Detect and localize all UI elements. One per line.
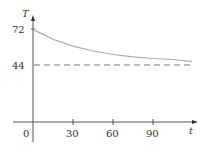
x-tick-label-90: 90 — [146, 128, 159, 139]
y-tick-label-72: 72 — [12, 24, 25, 35]
y-tick-label-44: 44 — [12, 60, 25, 71]
x-tick-label-30: 30 — [66, 128, 79, 139]
cooling-curve — [33, 29, 192, 61]
y-axis-label: T — [22, 8, 30, 19]
x-axis — [13, 119, 198, 125]
chart: T 72 44 0 30 60 90 t — [0, 0, 204, 153]
x-axis-label: t — [189, 125, 194, 136]
origin-label: 0 — [23, 128, 29, 139]
x-tick-label-60: 60 — [106, 128, 119, 139]
y-axis — [31, 15, 35, 142]
